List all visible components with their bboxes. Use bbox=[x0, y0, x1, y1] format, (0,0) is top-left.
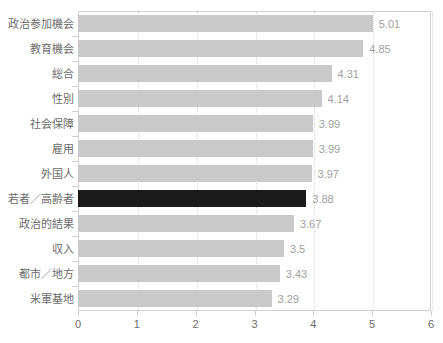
x-axis-tick bbox=[78, 311, 79, 316]
category-label: 総合 bbox=[0, 68, 74, 79]
y-axis-tick bbox=[72, 286, 78, 287]
bar[interactable] bbox=[78, 165, 312, 182]
category-label: 教育機会 bbox=[0, 43, 74, 54]
category-label: 政治参加機会 bbox=[0, 18, 74, 29]
x-axis: 0123456 bbox=[78, 311, 431, 343]
category-label: 政治的結果 bbox=[0, 218, 74, 229]
y-axis-tick bbox=[72, 61, 78, 62]
bar[interactable] bbox=[78, 90, 322, 107]
bar[interactable] bbox=[78, 240, 284, 257]
x-axis-tick bbox=[372, 311, 373, 316]
y-axis-tick bbox=[72, 186, 78, 187]
category-label: 若者／高齢者 bbox=[0, 193, 74, 204]
bar-value-label: 3.88 bbox=[312, 193, 333, 204]
bar-value-label: 5.01 bbox=[379, 18, 400, 29]
x-axis-tick bbox=[196, 311, 197, 316]
bar-row[interactable]: 3.67 bbox=[78, 215, 431, 232]
x-axis-tick bbox=[431, 311, 432, 316]
y-axis-tick bbox=[72, 36, 78, 37]
y-axis-tick bbox=[72, 161, 78, 162]
x-axis-tick-label: 1 bbox=[134, 319, 140, 330]
category-label: 米軍基地 bbox=[0, 293, 74, 304]
x-axis-tick-label: 6 bbox=[428, 319, 434, 330]
bar-value-label: 3.29 bbox=[278, 293, 299, 304]
bar-value-label: 4.85 bbox=[369, 43, 390, 54]
bar-row[interactable]: 3.88 bbox=[78, 190, 431, 207]
bar[interactable] bbox=[78, 190, 306, 207]
category-label: 外国人 bbox=[0, 168, 74, 179]
bar-value-label: 3.5 bbox=[290, 243, 305, 254]
bar-row[interactable]: 3.97 bbox=[78, 165, 431, 182]
x-axis-tick bbox=[137, 311, 138, 316]
x-axis-tick bbox=[313, 311, 314, 316]
bar[interactable] bbox=[78, 15, 373, 32]
category-label: 収入 bbox=[0, 243, 74, 254]
bar-value-label: 3.43 bbox=[286, 268, 307, 279]
bar[interactable] bbox=[78, 115, 313, 132]
x-axis-tick bbox=[255, 311, 256, 316]
bar[interactable] bbox=[78, 265, 280, 282]
y-axis-tick bbox=[72, 136, 78, 137]
category-label: 性別 bbox=[0, 93, 74, 104]
bar-value-label: 4.14 bbox=[328, 93, 349, 104]
y-axis-category-labels: 政治参加機会教育機会総合性別社会保障雇用外国人若者／高齢者政治的結果収入都市／地… bbox=[0, 11, 74, 311]
bar-row[interactable]: 4.31 bbox=[78, 65, 431, 82]
x-axis-tick-label: 3 bbox=[251, 319, 257, 330]
y-axis-tick bbox=[72, 211, 78, 212]
category-label: 雇用 bbox=[0, 143, 74, 154]
bar-row[interactable]: 4.85 bbox=[78, 40, 431, 57]
category-label: 社会保障 bbox=[0, 118, 74, 129]
bar-value-label: 3.99 bbox=[319, 118, 340, 129]
bar[interactable] bbox=[78, 40, 363, 57]
bar-row[interactable]: 3.29 bbox=[78, 290, 431, 307]
x-axis-tick-label: 4 bbox=[310, 319, 316, 330]
horizontal-bar-chart: 政治参加機会教育機会総合性別社会保障雇用外国人若者／高齢者政治的結果収入都市／地… bbox=[0, 0, 443, 343]
y-axis-tick bbox=[72, 111, 78, 112]
x-axis-tick-label: 2 bbox=[193, 319, 199, 330]
bar-row[interactable]: 3.99 bbox=[78, 115, 431, 132]
y-axis-tick bbox=[72, 236, 78, 237]
bar-row[interactable]: 4.14 bbox=[78, 90, 431, 107]
bar[interactable] bbox=[78, 140, 313, 157]
y-axis-tick bbox=[72, 86, 78, 87]
bar-value-label: 3.67 bbox=[300, 218, 321, 229]
bar-value-label: 3.99 bbox=[319, 143, 340, 154]
bar-value-label: 3.97 bbox=[318, 168, 339, 179]
y-axis-tick bbox=[72, 261, 78, 262]
bar-value-label: 4.31 bbox=[338, 68, 359, 79]
bar[interactable] bbox=[78, 215, 294, 232]
bar-row[interactable]: 3.43 bbox=[78, 265, 431, 282]
bar-row[interactable]: 3.5 bbox=[78, 240, 431, 257]
category-label: 都市／地方 bbox=[0, 268, 74, 279]
gridline-x-6 bbox=[432, 12, 434, 310]
bar-row[interactable]: 5.01 bbox=[78, 15, 431, 32]
bar[interactable] bbox=[78, 65, 332, 82]
bar[interactable] bbox=[78, 290, 272, 307]
bars-group: 5.014.854.314.143.993.993.973.883.673.53… bbox=[78, 11, 431, 311]
x-axis-tick-label: 0 bbox=[75, 319, 81, 330]
x-axis-tick-label: 5 bbox=[369, 319, 375, 330]
bar-row[interactable]: 3.99 bbox=[78, 140, 431, 157]
